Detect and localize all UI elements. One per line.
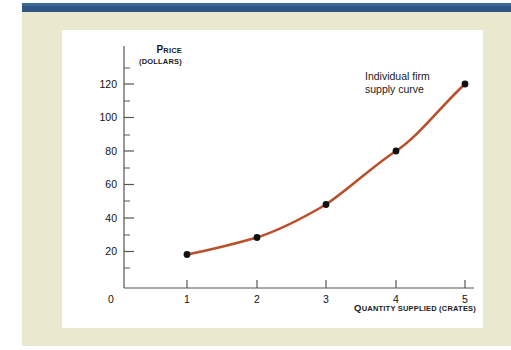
x-tick-label-5: 5 (455, 293, 475, 305)
annotation-line-2: supply curve (365, 83, 430, 96)
data-point (462, 81, 469, 88)
origin-label: 0 (101, 293, 121, 305)
data-point (184, 251, 191, 258)
y-minor-ticks (124, 68, 130, 268)
y-axis-title: PRICE (DOLLARS) (76, 42, 182, 67)
data-point-markers (184, 81, 469, 258)
annotation-line-1: Individual firm (365, 70, 430, 83)
data-point (254, 234, 261, 241)
x-tick-label-1: 1 (177, 293, 197, 305)
x-axis-title-cap: Q (354, 302, 362, 313)
top-blue-rule (22, 3, 511, 12)
y-tick-label-40: 40 (72, 212, 117, 224)
y-axis-title-rest: RICE (163, 46, 182, 55)
y-tick-label-100: 100 (72, 111, 117, 123)
top-rule-highlight (22, 3, 511, 6)
x-tick-label-4: 4 (386, 293, 406, 305)
data-point (323, 201, 330, 208)
x-tick-label-3: 3 (316, 293, 336, 305)
y-tick-label-120: 120 (72, 78, 117, 90)
x-major-ticks (187, 280, 465, 288)
x-axis-title: QUANTITY SUPPLIED (CRATES) (232, 302, 476, 313)
y-tick-label-20: 20 (72, 245, 117, 257)
data-point (393, 148, 400, 155)
curve-annotation: Individual firm supply curve (365, 70, 430, 96)
x-tick-label-2: 2 (247, 293, 267, 305)
y-tick-label-80: 80 (72, 145, 117, 157)
supply-curve-path (187, 84, 465, 255)
x-axis-title-rest: UANTITY SUPPLIED (CRATES) (362, 304, 476, 313)
figure-card: PRICE (DOLLARS) QUANTITY SUPPLIED (CRATE… (62, 30, 483, 328)
figure-screenshot: PRICE (DOLLARS) QUANTITY SUPPLIED (CRATE… (0, 0, 511, 350)
y-tick-label-60: 60 (72, 178, 117, 190)
y-axis-unit: (DOLLARS) (76, 56, 182, 67)
